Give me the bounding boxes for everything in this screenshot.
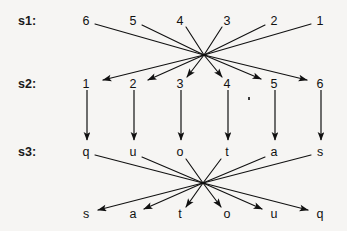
row-label-s1: s1: [18,15,36,28]
node-s3-2: u [125,146,141,159]
node-s4-3: t [172,208,188,221]
node-s3-6: s [312,146,328,159]
node-s2-1: 1 [78,78,94,91]
scan-speck [248,97,250,100]
node-s4-6: q [312,208,328,221]
node-s3-4: t [219,146,235,159]
node-s2-4: 4 [219,78,235,91]
permutation-diagram: s1: s2: s3: 6 5 4 3 2 1 1 2 3 4 5 6 q u … [0,0,347,231]
diagram-edges-layer [0,0,347,231]
node-s1-2: 5 [125,15,141,28]
node-s2-2: 2 [125,78,141,91]
edge-s1-5-to-s2-2-tail [148,55,204,80]
edge-group-s1-to-s2 [95,24,311,80]
node-s4-2: a [125,208,141,221]
node-s2-6: 6 [312,78,328,91]
row-label-s2: s2: [18,78,36,91]
node-s3-5: a [266,146,282,159]
edge-group-s2-to-s3 [87,90,321,140]
node-s4-5: u [266,208,282,221]
node-s4-1: s [78,208,94,221]
node-s1-6: 1 [312,15,328,28]
node-s3-3: o [172,146,188,159]
node-s1-1: 6 [78,15,94,28]
edge-group-s3-to-s4 [95,155,311,210]
node-s4-4: o [219,208,235,221]
node-s1-3: 4 [172,15,188,28]
node-s2-5: 5 [266,78,282,91]
row-label-s3: s3: [18,146,36,159]
node-s3-1: q [78,146,94,159]
edge-s1-6-to-s2-1-tail [103,55,204,80]
node-s1-4: 3 [219,15,235,28]
node-s2-3: 3 [172,78,188,91]
node-s1-5: 2 [266,15,282,28]
edge-s3-s-to-s4-s [203,155,311,183]
